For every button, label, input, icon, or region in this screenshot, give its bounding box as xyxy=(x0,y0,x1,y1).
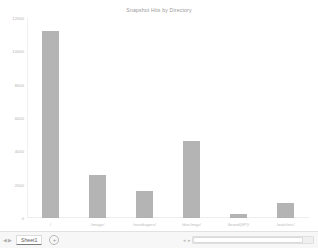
bar-slot: /doc/imgs/ xyxy=(168,18,215,218)
add-sheet-icon[interactable]: + xyxy=(49,235,59,245)
bar-slot: /wordtagers/ xyxy=(121,18,168,218)
horizontal-scrollbar[interactable] xyxy=(192,236,314,244)
sheet-statusbar: ◀ ▶ Sheet1 + ◂ ▸ xyxy=(0,231,318,248)
bar[interactable] xyxy=(277,203,294,218)
bar-slot: / xyxy=(27,18,74,218)
x-axis-tick-label: /watches/ xyxy=(277,222,295,227)
next-sheet-icon[interactable]: ▶ xyxy=(8,238,12,243)
sheet-tab-sheet1[interactable]: Sheet1 xyxy=(16,235,42,246)
spreadsheet-chart-view: Snapshot Hits by Directory 0200040006000… xyxy=(0,0,318,248)
bar-series: //image//wordtagers//doc/imgs//brand(SP)… xyxy=(27,18,309,218)
sheet-nav-arrows[interactable]: ◀ ▶ xyxy=(0,238,12,243)
y-axis-tick-label: 10000 xyxy=(12,49,24,54)
bar-slot: /image/ xyxy=(74,18,121,218)
chart-title: Snapshot Hits by Directory xyxy=(0,7,318,13)
plot-inner: 020004000600080001000012000 //image//wor… xyxy=(27,18,309,218)
x-axis-tick-label: /wordtagers/ xyxy=(133,222,156,227)
y-axis-tick-label: 4000 xyxy=(15,149,24,154)
y-axis-tick-label: 8000 xyxy=(15,82,24,87)
prev-sheet-icon[interactable]: ◀ xyxy=(3,238,7,243)
bar[interactable] xyxy=(136,191,153,218)
bar[interactable] xyxy=(42,31,59,218)
y-axis-tick-label: 0 xyxy=(22,216,24,221)
bar[interactable] xyxy=(89,175,106,218)
x-axis-tick-label: /brand(SP)/ xyxy=(228,222,249,227)
bar-slot: /brand(SP)/ xyxy=(215,18,262,218)
x-axis-tick-label: /image/ xyxy=(91,222,105,227)
chart-canvas[interactable]: Snapshot Hits by Directory 0200040006000… xyxy=(0,0,318,232)
y-axis-tick-label: 2000 xyxy=(15,182,24,187)
plot-area: 020004000600080001000012000 //image//wor… xyxy=(27,18,309,218)
bar-slot: /watches/ xyxy=(262,18,309,218)
bar[interactable] xyxy=(230,214,247,218)
horizontal-scrollbar-thumb[interactable] xyxy=(193,237,303,243)
x-axis-tick-label: /doc/imgs/ xyxy=(182,222,201,227)
x-axis-tick-label: / xyxy=(50,222,51,227)
y-axis-tick-label: 12000 xyxy=(12,16,24,21)
y-axis-tick-label: 6000 xyxy=(15,116,24,121)
bar[interactable] xyxy=(183,141,200,218)
